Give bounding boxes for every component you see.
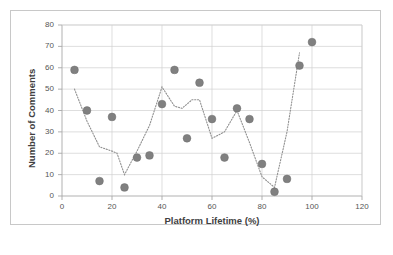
y-tick-label: 50 [24,84,54,93]
y-tick-label: 10 [24,170,54,179]
y-tick-label: 20 [24,148,54,157]
x-axis-title: Platform Lifetime (%) [62,215,362,226]
x-tick-label: 100 [297,202,327,211]
data-points [71,38,316,195]
x-tick-label: 40 [147,202,177,211]
gridlines [62,25,362,196]
y-tick-label: 70 [24,41,54,50]
trendline [75,53,300,188]
y-tick-label: 30 [24,127,54,136]
y-tick-label: 60 [24,63,54,72]
x-tick-label: 0 [47,202,77,211]
x-tick-label: 20 [97,202,127,211]
y-tick-label: 40 [24,106,54,115]
x-tick-label: 60 [197,202,227,211]
tick-marks [58,25,362,200]
y-tick-label: 0 [24,191,54,200]
x-tick-label: 120 [347,202,377,211]
y-tick-label: 80 [24,20,54,29]
x-tick-label: 80 [247,202,277,211]
